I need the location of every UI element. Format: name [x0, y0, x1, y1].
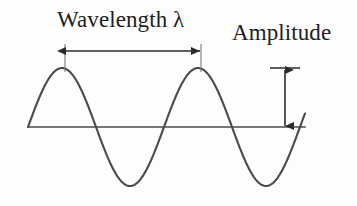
wavelength-label: Wavelength λ: [57, 8, 184, 31]
amplitude-label: Amplitude: [232, 21, 331, 44]
wave-diagram: Wavelength λ Amplitude: [0, 0, 357, 206]
